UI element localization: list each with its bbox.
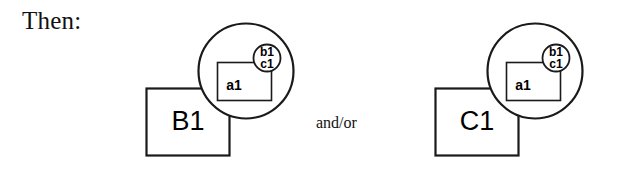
- inner-rect-a1-label-b: a1: [226, 77, 242, 93]
- diagram-group-c1: C1 a1 b1 c1: [436, 24, 583, 156]
- square-b1-label: B1: [171, 106, 204, 136]
- inner-rect-a1-label-c: a1: [515, 77, 531, 93]
- inner-circle-bottom-label-b: c1: [260, 57, 274, 71]
- diagram-canvas: B1 a1 b1 c1 C1 a1 b1 c1: [0, 0, 622, 175]
- diagram-group-b1: B1 a1 b1 c1: [147, 24, 294, 156]
- inner-circle-bottom-label-c: c1: [549, 57, 563, 71]
- square-c1-label: C1: [460, 106, 495, 136]
